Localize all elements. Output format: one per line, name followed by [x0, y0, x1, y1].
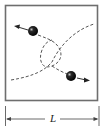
- diagram-svg: [0, 0, 105, 129]
- dimension-label: L: [49, 113, 57, 124]
- particle-ball-2: [66, 71, 76, 81]
- particle-ball-1: [28, 26, 38, 36]
- diagram-figure: L: [0, 0, 105, 129]
- dimension-arrow-right: [94, 117, 99, 121]
- dimension-arrow-left: [6, 117, 11, 121]
- container-box: [6, 6, 98, 101]
